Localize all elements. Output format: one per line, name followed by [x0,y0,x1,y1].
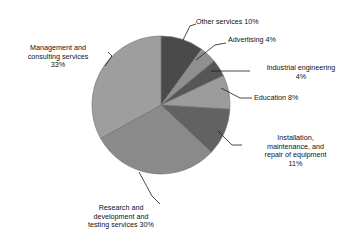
leader-line-other-services [183,24,196,40]
pie-slice-group [92,36,230,174]
slice-label-advertising: Advertising 4% [228,36,338,45]
slice-label-education: Education 8% [254,94,349,103]
slice-label-management-consulting: Management and consulting services 33% [4,44,112,70]
slice-label-research-development-testing: Research and development and testing ser… [62,204,180,230]
slice-label-industrial-engineering: Industrial engineering 4% [252,64,350,81]
leader-line-research [139,172,160,204]
slice-label-installation-maintenance-repair: Installation, maintenance, and repair of… [243,134,348,168]
pie-chart-figure: Other services 10% Advertising 4% Indust… [0,0,352,243]
slice-label-other-services: Other services 10% [196,18,316,27]
